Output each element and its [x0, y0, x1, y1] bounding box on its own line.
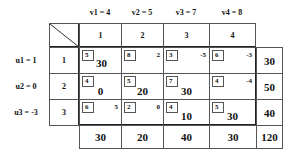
- v2-label: v2 = 5: [121, 8, 163, 17]
- allocation: 20: [122, 85, 163, 97]
- cell-1-4: 6 -3: [209, 47, 257, 74]
- cell-1-3: 3 -5: [163, 47, 210, 74]
- cell-1-2: 8 2: [121, 47, 164, 74]
- col-header-2: 2: [121, 23, 164, 48]
- reduced-cost: 0: [157, 103, 161, 111]
- cell-3-3: 4 10: [163, 99, 210, 126]
- demand-4: 30: [209, 125, 257, 149]
- col-header-3: 3: [163, 23, 210, 48]
- u2-label: u2 = 0: [6, 82, 46, 91]
- cost-box: 4: [212, 76, 224, 87]
- allocation: 10: [164, 110, 209, 122]
- cell-1-1: 5 30: [79, 47, 122, 74]
- supply-1: 30: [256, 47, 283, 74]
- cell-2-1: 4 0: [79, 73, 122, 100]
- cell-2-2: 5 20: [121, 73, 164, 100]
- cost-box: 6: [82, 102, 94, 113]
- cost-box: 3: [166, 50, 178, 61]
- supply-3: 40: [256, 99, 283, 126]
- v3-label: v3 = 7: [165, 8, 207, 17]
- cell-3-1: 6 5: [79, 99, 122, 126]
- cell-2-3: 7 30: [163, 73, 210, 100]
- row-header-3: 3: [49, 99, 80, 126]
- row-header-2: 2: [49, 73, 80, 100]
- reduced-cost: -5: [200, 51, 206, 59]
- cost-box: 5: [82, 50, 94, 61]
- u1-label: u1 = 1: [6, 56, 46, 65]
- allocation: 0: [80, 85, 121, 97]
- corner-cell: [49, 23, 80, 48]
- col-header-1: 1: [79, 23, 122, 48]
- diagonal-line: [50, 24, 79, 47]
- u3-label: u3 = -3: [6, 108, 46, 117]
- col-header-4: 4: [209, 23, 256, 48]
- row-header-1: 1: [49, 47, 80, 74]
- allocation: 30: [96, 57, 121, 69]
- reduced-cost: -4: [246, 77, 252, 85]
- cell-3-4: 5 30: [209, 99, 257, 126]
- allocation: 30: [164, 85, 209, 97]
- cost-box: 6: [212, 50, 224, 61]
- v4-label: v4 = 8: [211, 8, 253, 17]
- reduced-cost: 2: [157, 51, 161, 59]
- demand-1: 30: [79, 125, 122, 149]
- reduced-cost: -3: [246, 51, 252, 59]
- grand-total: 120: [256, 125, 283, 149]
- cell-3-2: 2 0: [121, 99, 164, 126]
- reduced-cost: 5: [115, 103, 119, 111]
- cell-2-4: 4 -4: [209, 73, 257, 100]
- supply-2: 50: [256, 73, 283, 100]
- allocation: 30: [210, 110, 255, 122]
- demand-3: 40: [163, 125, 210, 149]
- v1-label: v1 = 4: [79, 8, 121, 17]
- demand-2: 20: [121, 125, 164, 149]
- cost-box: 2: [124, 102, 136, 113]
- cost-box: 8: [124, 50, 136, 61]
